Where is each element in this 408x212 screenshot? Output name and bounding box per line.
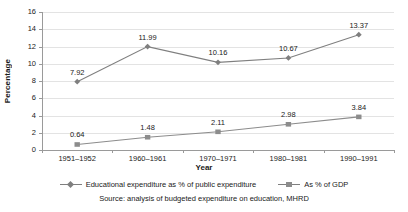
- y-axis-tick-label: 16: [28, 8, 36, 16]
- data-point-square[interactable]: [356, 115, 361, 120]
- data-point-diamond[interactable]: [356, 32, 362, 38]
- y-axis-title-label: Percentage: [3, 59, 12, 103]
- data-point-label: 2.98: [281, 111, 296, 119]
- y-axis-tick-label: 14: [28, 26, 36, 34]
- chart-container: Percentage 0246810121416 1951–19521960–1…: [0, 0, 408, 212]
- legend-item-percent-gdp[interactable]: As % of GDP: [278, 180, 348, 189]
- data-point-label: 11.99: [138, 33, 156, 41]
- data-point-label: 10.16: [209, 49, 228, 57]
- y-axis-tick-label: 4: [32, 112, 36, 120]
- data-point-label: 3.84: [351, 103, 366, 111]
- x-axis-tick-label: 1970–1971: [199, 155, 237, 163]
- x-axis-tick-label: 1980–1981: [270, 155, 308, 163]
- series-line-1: [77, 35, 359, 82]
- source-note: Source: analysis of budgeted expenditure…: [0, 194, 408, 203]
- data-point-square[interactable]: [75, 142, 80, 147]
- x-axis-title: Year: [0, 163, 408, 172]
- x-axis-tick: [42, 150, 43, 153]
- data-point-diamond[interactable]: [286, 55, 292, 61]
- y-axis-tick-label: 8: [32, 77, 36, 85]
- data-point-label: 13.37: [349, 21, 368, 29]
- y-axis-tick-label: 2: [32, 129, 36, 137]
- y-axis-tick-label: 0: [32, 146, 36, 154]
- data-point-label: 1.48: [140, 124, 155, 132]
- data-point-diamond[interactable]: [74, 79, 80, 85]
- x-axis-tick-label: 1960–1961: [129, 155, 167, 163]
- data-point-label: 10.67: [279, 44, 298, 52]
- data-point-diamond[interactable]: [145, 44, 151, 50]
- diamond-marker-icon: [60, 181, 82, 189]
- x-axis-tick: [324, 150, 325, 153]
- data-point-diamond[interactable]: [215, 59, 221, 65]
- legend-item-educational-expenditure[interactable]: Educational expenditure as % of public e…: [60, 180, 257, 189]
- x-axis-tick: [183, 150, 184, 153]
- series-plot: [42, 12, 394, 150]
- x-axis-tick: [112, 150, 113, 153]
- x-axis-tick-label: 1990–1991: [340, 155, 378, 163]
- square-marker-icon: [278, 181, 300, 189]
- x-axis-tick: [394, 150, 395, 153]
- y-axis-tick-label: 10: [28, 60, 36, 68]
- y-axis-tick-label: 12: [28, 43, 36, 51]
- data-point-label: 7.92: [70, 68, 85, 76]
- x-axis-tick: [253, 150, 254, 153]
- legend-label: Educational expenditure as % of public e…: [86, 180, 257, 189]
- x-axis-tick-label: 1951–1952: [58, 155, 96, 163]
- plot-area: 0246810121416 1951–19521960–19611970–197…: [42, 12, 394, 150]
- data-point-square[interactable]: [145, 135, 150, 140]
- x-axis-line: [42, 150, 394, 151]
- legend-label: As % of GDP: [304, 180, 348, 189]
- chart-legend: Educational expenditure as % of public e…: [0, 180, 408, 189]
- data-point-label: 0.64: [70, 131, 85, 139]
- y-axis-tick-label: 6: [32, 95, 36, 103]
- data-point-square[interactable]: [286, 122, 291, 127]
- y-axis-title: Percentage: [2, 12, 13, 150]
- data-point-label: 2.11: [211, 118, 225, 126]
- data-point-square[interactable]: [215, 130, 220, 135]
